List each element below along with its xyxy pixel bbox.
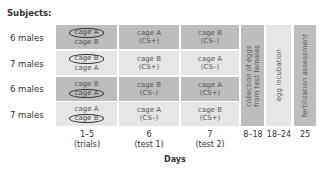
subjects-heading: Subjects: — [7, 8, 52, 18]
cage: cage B — [137, 81, 161, 90]
cell-test1-row1: cage A (CS+) — [119, 25, 179, 49]
cage-circled: cage B — [69, 114, 105, 124]
cs-condition: (CS–) — [140, 89, 158, 98]
cage: cage A — [75, 64, 99, 73]
cs-condition: (CS+) — [139, 63, 160, 72]
phase-label: fertilization assessment — [301, 34, 309, 117]
row-label-3: 6 males — [10, 84, 54, 94]
cage: cage B — [198, 106, 222, 115]
row-label-2: 7 males — [10, 59, 54, 69]
cell-test2-row1: cage B (CS–) — [181, 25, 239, 49]
cage: cage B — [198, 29, 222, 38]
cs-condition: (CS+) — [200, 114, 221, 123]
phase-fertilization-assessment: fertilization assessment — [294, 25, 316, 126]
cage: cage A — [137, 29, 161, 38]
cs-condition: (CS–) — [140, 114, 158, 123]
row-label-4: 7 males — [10, 110, 54, 120]
cage: cage A — [137, 106, 161, 115]
cs-condition: (CS+) — [200, 89, 221, 98]
phase-egg-collection: collection of eggs from test females — [241, 25, 264, 126]
cage: cage B — [75, 80, 99, 89]
day-label-trials: 1–5 (trials) — [62, 130, 112, 150]
cage: cage B — [137, 55, 161, 64]
cage: cage A — [75, 105, 99, 114]
cell-test1-row4: cage A (CS–) — [119, 102, 179, 126]
cs-condition: (CS–) — [201, 37, 219, 46]
row-label-1: 6 males — [10, 33, 54, 43]
phase-label: egg incubation — [275, 49, 283, 101]
cage: cage A — [198, 55, 222, 64]
day-label-incubation: 18–24 — [264, 130, 294, 140]
cell-trials-row4: cage A cage B — [56, 102, 117, 126]
day-label-assessment: 25 — [292, 130, 318, 140]
phase-egg-incubation: egg incubation — [266, 25, 291, 126]
cage-circled: cage B — [69, 54, 105, 64]
phase-label: collection of eggs — [245, 45, 253, 107]
cage: cage A — [198, 81, 222, 90]
cell-test1-row3: cage B (CS–) — [119, 77, 179, 101]
cell-trials-row3: cage B cage A — [56, 77, 117, 101]
cell-test2-row3: cage A (CS+) — [181, 77, 239, 101]
cs-condition: (CS+) — [139, 37, 160, 46]
cs-condition: (CS–) — [201, 63, 219, 72]
cage-circled: cage A — [69, 28, 105, 38]
phase-label: from test females — [253, 45, 261, 107]
cage-circled: cage A — [69, 89, 105, 99]
cell-trials-row1: cage A cage B — [56, 25, 117, 49]
cage: cage B — [75, 38, 99, 47]
cell-test2-row4: cage B (CS+) — [181, 102, 239, 126]
days-axis-label: Days — [164, 155, 186, 164]
day-label-test2: 7 (test 2) — [185, 130, 235, 150]
cell-trials-row2: cage B cage A — [56, 51, 117, 75]
cell-test1-row2: cage B (CS+) — [119, 51, 179, 75]
cell-test2-row2: cage A (CS–) — [181, 51, 239, 75]
day-label-test1: 6 (test 1) — [124, 130, 174, 150]
